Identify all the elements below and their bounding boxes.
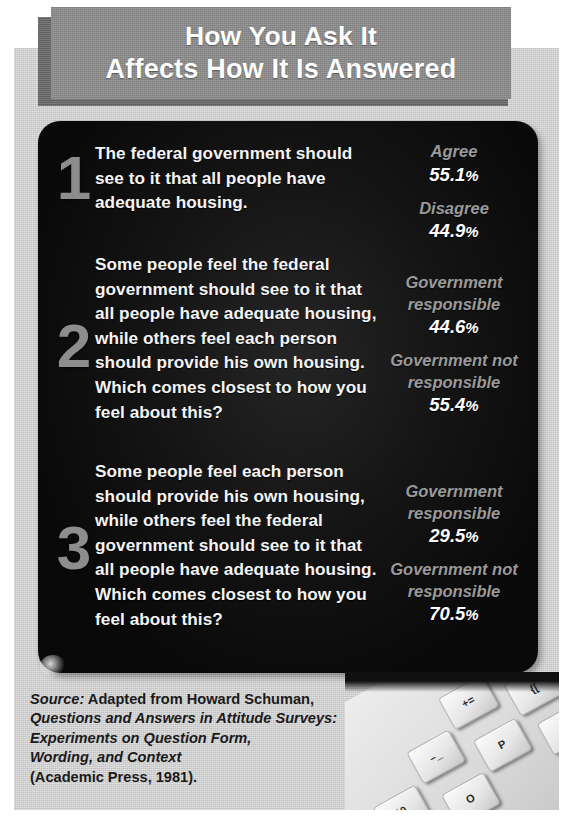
result-label: Disagree: [378, 198, 530, 220]
result-unit: %: [465, 319, 478, 336]
keyboard-key-o: O: [441, 772, 500, 810]
keyboard-key-paren-zero: )0: [373, 785, 432, 810]
question-row-2: 2 Some people feel the federal governmen…: [38, 252, 538, 452]
result-unit: %: [465, 223, 478, 240]
result-label: Government responsible: [378, 272, 530, 315]
result-value: 29.5%: [378, 524, 530, 549]
source-line-1: Source: Adapted from Howard Schuman,: [30, 690, 360, 709]
result-label: Government not responsible: [378, 350, 530, 393]
question-number-1: 1: [46, 147, 102, 209]
question-results-2: Government responsible 44.6% Government …: [378, 272, 530, 418]
result-number: 44.9: [429, 220, 465, 241]
result-unit: %: [465, 528, 478, 545]
result-value: 55.1%: [378, 163, 530, 188]
question-number-2: 2: [46, 315, 102, 377]
result-unit: %: [465, 397, 478, 414]
question-results-3: Government responsible 29.5% Government …: [378, 481, 530, 627]
title-line-1: How You Ask It: [185, 20, 377, 53]
figure-root: How You Ask It Affects How It Is Answere…: [0, 0, 576, 824]
result-number: 70.5: [429, 603, 465, 624]
result-block: Government not responsible 70.5%: [378, 559, 530, 627]
question-text-1: The federal government should see to it …: [95, 141, 385, 215]
source-author: Adapted from Howard Schuman,: [84, 691, 314, 707]
result-number: 29.5: [429, 525, 465, 546]
question-number-3: 3: [46, 517, 102, 579]
question-panel: 1 The federal government should see to i…: [38, 121, 538, 673]
result-number: 55.4: [429, 394, 465, 415]
source-lead: Source:: [30, 691, 84, 707]
source-line-5: (Academic Press, 1981).: [30, 768, 360, 787]
result-label: Agree: [378, 141, 530, 163]
title-banner: How You Ask It Affects How It Is Answere…: [51, 7, 511, 99]
source-line-4: Wording, and Context: [30, 748, 360, 767]
keyboard-plate: delete += –_ )0 {[ }] P O :; "': [345, 672, 559, 810]
keyboard-key-label: +=: [460, 694, 477, 710]
keyboard-key-minus: –_: [406, 730, 465, 785]
question-row-1: 1 The federal government should see to i…: [38, 139, 538, 249]
keyboard-dark-overlay: [345, 672, 559, 692]
keyboard-photo: delete += –_ )0 {[ }] P O :; "': [345, 672, 559, 810]
result-label: Government responsible: [378, 481, 530, 524]
source-line-3: Experiments on Question Form,: [30, 729, 360, 748]
result-number: 55.1: [429, 164, 465, 185]
result-label: Government not responsible: [378, 559, 530, 602]
question-panel-inner: 1 The federal government should see to i…: [38, 121, 538, 673]
question-text-3: Some people feel each person should prov…: [95, 459, 385, 631]
question-text-2: Some people feel the federal government …: [95, 252, 385, 424]
source-line-2: Questions and Answers in Attitude Survey…: [30, 709, 360, 728]
keyboard-key-semicolon: :;: [537, 701, 559, 756]
keyboard-key-p: P: [473, 718, 532, 773]
question-row-3: 3 Some people feel each person should pr…: [38, 459, 538, 664]
result-number: 44.6: [429, 316, 465, 337]
result-block: Government responsible 29.5%: [378, 481, 530, 549]
title-line-2: Affects How It Is Answered: [106, 53, 457, 86]
result-block: Government responsible 44.6%: [378, 272, 530, 340]
result-value: 70.5%: [378, 602, 530, 627]
result-value: 44.9%: [378, 219, 530, 244]
keyboard-key-label: O: [464, 792, 477, 806]
keyboard-key-label: –_: [428, 749, 444, 765]
keyboard-key-label: )0: [395, 805, 409, 810]
question-results-1: Agree 55.1% Disagree 44.9%: [378, 141, 530, 244]
result-block: Government not responsible 55.4%: [378, 350, 530, 418]
keyboard-key-label: P: [497, 738, 509, 752]
result-unit: %: [465, 606, 478, 623]
result-block: Disagree 44.9%: [378, 198, 530, 245]
result-unit: %: [465, 167, 478, 184]
result-value: 44.6%: [378, 315, 530, 340]
result-value: 55.4%: [378, 393, 530, 418]
result-block: Agree 55.1%: [378, 141, 530, 188]
source-citation: Source: Adapted from Howard Schuman, Que…: [30, 690, 360, 787]
